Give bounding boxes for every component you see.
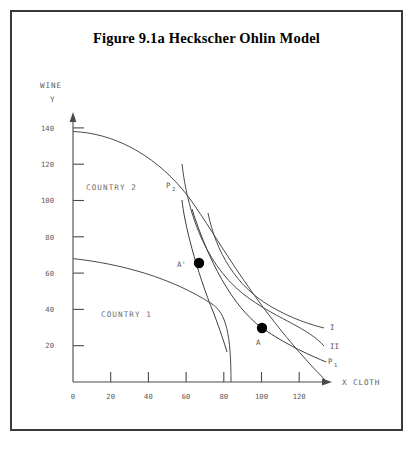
y-axis-arrow-icon [70,112,77,122]
x-tick-label: 20 [106,392,115,401]
y-tick-label: 140 [41,124,54,133]
y-tick-label: 80 [45,233,54,242]
country1-region-label: COUNTRY 1 [101,310,152,319]
y-tick-label: 20 [45,341,54,350]
x-tick-label: 120 [293,392,306,401]
price-line-p2-label: P 2 [166,181,175,192]
y-axis-ticks: 20 40 60 80 100 120 140 [41,124,84,351]
indifference-curve-II-label: II [330,342,339,351]
indifference-curve-II [182,164,324,346]
x-tick-label: 60 [182,392,191,401]
x-axis-label-cloth: X CLOTH [342,378,380,387]
price-line-p2-label-text: P [166,181,171,190]
heckscher-ohlin-chart: WINE Y X CLOTH 20 40 60 80 100 120 140 [12,12,405,433]
x-tick-label: 100 [255,392,268,401]
y-tick-label: 120 [41,160,54,169]
equilibrium-point-a-marker[interactable] [257,323,267,333]
equilibrium-point-a-prime-label: A' [177,260,186,269]
x-tick-label: 0 [71,392,75,401]
figure-frame: Figure 9.1a Heckscher Ohlin Model WINE Y… [10,10,403,431]
y-axis-label-wine: WINE [40,81,62,90]
country1-ppf-curve [73,259,231,382]
equilibrium-point-a-label: A [256,338,261,347]
x-tick-label: 40 [144,392,153,401]
price-line-p1-label-subscript: 1 [334,362,337,368]
y-tick-label: 100 [41,196,54,205]
indifference-curve-I-label: I [330,323,334,332]
x-tick-label: 80 [219,392,228,401]
price-line-p1-label: P 1 [328,357,337,368]
x-axis-ticks: 0 20 40 60 80 100 120 [71,372,306,401]
y-tick-label: 40 [45,305,54,314]
y-axis-label-y: Y [50,95,55,104]
equilibrium-point-a-prime-marker[interactable] [194,258,204,268]
country2-region-label: COUNTRY 2 [86,183,137,192]
y-tick-label: 60 [45,269,54,278]
price-line-p1-label-text: P [328,357,333,366]
price-line-p2-label-subscript: 2 [172,186,175,192]
